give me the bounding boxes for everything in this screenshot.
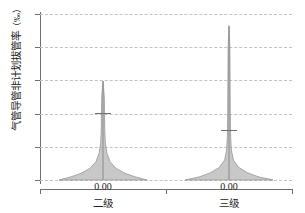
mean-marker-三级: [221, 130, 237, 131]
y-tick-mark-0: [35, 180, 40, 181]
data-label-三级: 0.00: [220, 181, 238, 192]
y-tick-mark-5: [35, 14, 40, 15]
data-label-二级: 0.00: [94, 181, 112, 192]
y-tick-mark-2: [35, 114, 40, 115]
y-tick-mark-1: [35, 147, 40, 148]
y-axis-title: 气管导管非计划拔管率（‰）: [8, 0, 23, 153]
y-axis-unit: （‰）: [12, 4, 22, 31]
violin-chart-figure: 气管导管非计划拔管率（‰） 012345 0.00二级0.00三级: [0, 0, 305, 213]
y-axis-title-text: 气管导管非计划拔管率: [11, 31, 22, 131]
y-tick-mark-4: [35, 47, 40, 48]
plot-area: [40, 14, 292, 180]
mean-marker-二级: [95, 113, 111, 114]
x-axis-end-tick-left: [40, 189, 41, 194]
x-axis-separator-tick: [166, 189, 167, 194]
category-label-三级: 三级: [166, 195, 292, 210]
y-tick-mark-3: [35, 80, 40, 81]
category-label-二级: 二级: [40, 195, 166, 210]
violin-spine-三级: [229, 26, 230, 180]
x-axis-end-tick-right: [292, 189, 293, 194]
violin-spine-二级: [103, 81, 104, 180]
